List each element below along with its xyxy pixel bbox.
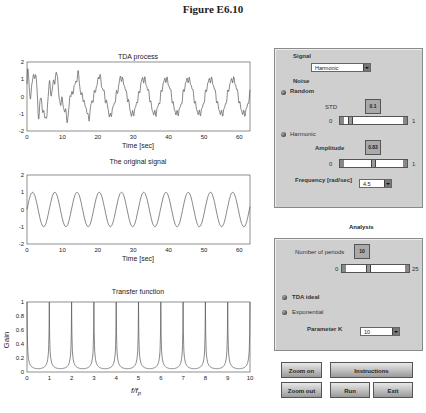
original-plot: The original signal 210-1-20102030405060… [19,158,250,263]
frequency-select-value: 4.5 [363,181,371,187]
amplitude-slider[interactable] [339,159,408,168]
svg-text:20: 20 [94,247,101,253]
chevron-down-icon [384,180,391,187]
slider-left-arrow-icon[interactable] [340,160,344,167]
svg-text:-2: -2 [19,241,25,247]
slider-left-arrow-icon[interactable] [340,117,344,124]
svg-text:3: 3 [92,375,96,381]
svg-text:50: 50 [201,134,208,140]
exponential-radio[interactable] [282,310,287,315]
std-slider-thumb[interactable] [348,117,353,124]
periods-slider-thumb[interactable] [366,265,371,272]
transfer-plot-title: Transfer function [112,288,164,295]
tda-xlabel: Time [sec] [122,142,154,150]
svg-text:-1: -1 [19,111,25,117]
std-slider[interactable] [339,116,408,125]
slider-right-arrow-icon[interactable] [405,265,409,272]
svg-text:10: 10 [59,247,66,253]
periods-max: 25 [412,266,419,272]
run-button[interactable]: Run [330,382,370,398]
transfer-plot: Transfer function 10.80.60.40.2001234567… [2,288,254,396]
amplitude-value: 0.83 [365,140,381,155]
transfer-ylabel: Gain [2,332,11,349]
slider-left-arrow-icon[interactable] [342,265,346,272]
svg-text:0: 0 [21,94,25,100]
periods-label: Number of periods [295,249,344,255]
svg-text:10: 10 [59,134,66,140]
slider-right-arrow-icon[interactable] [403,160,407,167]
instructions-button[interactable]: Instructions [330,362,413,378]
zoom-out-button[interactable]: Zoom out [281,382,322,398]
svg-text:30: 30 [130,134,137,140]
svg-text:40: 40 [165,134,172,140]
chevron-down-icon [363,64,370,71]
svg-text:1: 1 [21,189,25,195]
harmonic-radio[interactable] [281,132,286,137]
std-value: 0.1 [365,99,381,114]
harmonic-label: Harmonic [290,131,316,137]
amplitude-label: Amplitude [315,145,344,151]
tda-plot: TDA process 210-1-20102030405060 Time [s… [19,53,250,150]
std-label: STD [325,104,337,110]
svg-text:0.8: 0.8 [16,313,25,319]
slider-right-arrow-icon[interactable] [403,117,407,124]
tda-plot-title: TDA process [118,53,159,61]
analysis-title: Analysis [349,224,374,230]
zoom-on-button[interactable]: Zoom on [281,362,322,378]
std-min: 0 [329,118,332,124]
svg-text:5: 5 [137,375,141,381]
svg-text:-1: -1 [19,224,25,230]
chevron-down-icon [392,328,399,335]
svg-text:50: 50 [201,247,208,253]
std-max: 1 [412,118,415,124]
svg-text:10: 10 [247,375,254,381]
periods-slider[interactable] [341,264,410,273]
amp-max: 1 [412,161,415,167]
svg-text:2: 2 [21,172,25,178]
exit-button[interactable]: Exit [373,382,413,398]
svg-text:0.2: 0.2 [16,355,25,361]
svg-text:-2: -2 [19,128,25,134]
param-k-select-value: 10 [364,329,370,335]
svg-text:0.6: 0.6 [16,327,25,333]
periods-min: 0 [335,266,338,272]
signal-select-value: Harmonic [315,65,339,71]
svg-text:0.4: 0.4 [16,341,25,347]
svg-text:2: 2 [70,375,74,381]
svg-text:40: 40 [165,247,172,253]
signal-panel: Signal Harmonic Noise Random STD 0.1 0 1… [274,48,423,208]
transfer-xlabel: f/fp [131,386,142,396]
random-radio[interactable] [281,90,286,95]
analysis-panel: Number of periods 10 0 25 TDA ideal Expo… [274,238,423,351]
svg-text:60: 60 [236,247,243,253]
signal-select[interactable]: Harmonic [311,63,371,72]
svg-text:0: 0 [21,369,25,375]
svg-text:0: 0 [21,207,25,213]
svg-text:60: 60 [236,134,243,140]
frequency-label: Frequency [rad/sec] [295,177,352,183]
svg-text:9: 9 [226,375,230,381]
svg-text:1: 1 [21,76,25,82]
amplitude-slider-thumb[interactable] [371,160,376,167]
random-label: Random [290,88,314,94]
periods-value: 10 [354,244,370,259]
svg-text:7: 7 [181,375,185,381]
amp-min: 0 [329,161,332,167]
svg-text:0: 0 [25,247,29,253]
param-k-label: Parameter K [307,326,342,332]
svg-text:2: 2 [21,59,25,65]
svg-text:20: 20 [94,134,101,140]
param-k-select[interactable]: 10 [360,327,400,336]
frequency-select[interactable]: 4.5 [359,179,392,188]
original-xlabel: Time [sec] [122,255,154,263]
tda-ideal-label: TDA ideal [292,294,319,300]
plots-area: TDA process 210-1-20102030405060 Time [s… [0,0,260,413]
svg-text:4: 4 [115,375,119,381]
svg-text:1: 1 [48,375,52,381]
noise-label: Noise [293,78,309,84]
tda-ideal-radio[interactable] [282,295,287,300]
svg-text:0: 0 [25,134,29,140]
svg-text:30: 30 [130,247,137,253]
svg-text:1: 1 [21,299,25,305]
svg-text:0: 0 [25,375,29,381]
